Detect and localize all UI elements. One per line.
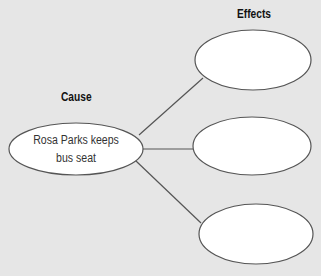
cause-text: Rosa Parks keeps bus seat xyxy=(23,131,129,167)
effects-heading: Effects xyxy=(237,7,271,21)
cause-text-line2: bus seat xyxy=(23,149,129,167)
cause-heading: Cause xyxy=(61,90,92,104)
connector-1 xyxy=(139,78,203,135)
connector-3 xyxy=(136,161,201,223)
effect-ellipse-1[interactable] xyxy=(195,30,311,90)
cause-text-line1: Rosa Parks keeps xyxy=(23,131,129,149)
effect-ellipse-2[interactable] xyxy=(193,117,311,175)
effect-ellipse-3[interactable] xyxy=(199,204,313,264)
